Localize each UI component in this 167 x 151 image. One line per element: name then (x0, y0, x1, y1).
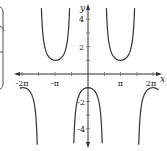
y-axis (86, 4, 90, 148)
curve-branch (41, 8, 69, 60)
adjacent-frame-fragment (0, 6, 4, 90)
x-tick-label-pi: π (118, 79, 123, 88)
x-tick-label-neg-2pi: -2π (15, 79, 28, 88)
x-tick-label-2pi: 2π (146, 79, 156, 88)
x-axis-label: x (160, 74, 165, 84)
curve-branch (106, 8, 134, 60)
function-curve (20, 8, 159, 145)
y-axis-label: y (79, 3, 86, 13)
x-tick-label-neg-pi: -π (51, 79, 59, 88)
y-axis-down-arrow-icon (86, 142, 90, 148)
y-tick-label-2: 2 (79, 43, 84, 52)
y-axis-up-arrow-icon (86, 4, 90, 10)
curve-branch (139, 88, 159, 145)
x-axis-left-arrow-icon (14, 72, 20, 76)
secant-graph: -2π -π π 2π x 4 2 -2 -4 y (0, 0, 167, 151)
y-tick-label-4: 4 (79, 15, 84, 24)
y-tick-label-neg-4: -4 (77, 125, 85, 134)
curve-branch (20, 88, 38, 145)
